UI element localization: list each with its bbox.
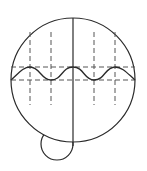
geometry-diagram bbox=[0, 0, 147, 171]
